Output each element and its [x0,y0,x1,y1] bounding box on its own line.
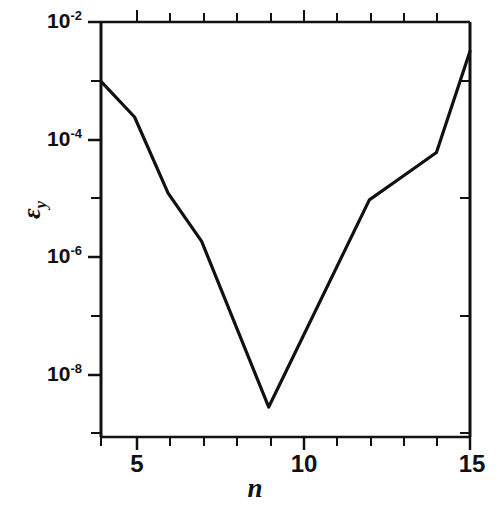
x-axis-label: n [247,473,262,504]
y-tick-label-1: 10-2 [30,10,82,31]
x-tick-label-10: 10 [280,452,328,476]
data-series-line [101,51,470,407]
x-tick-label-5: 5 [117,452,157,476]
top-axis-ticks [137,10,437,22]
x-axis-major-ticks [137,437,470,450]
chart-figure: 10-2 10-4 10-6 10-8 5 10 15 εy n [0,0,499,505]
y-tick-label-4: 10-8 [30,363,82,384]
x-tick-label-15: 15 [448,452,496,476]
x-axis-minor-ticks [101,437,437,446]
y-tick-label-2: 10-4 [30,128,82,149]
y-axis-label: εy [17,170,47,250]
